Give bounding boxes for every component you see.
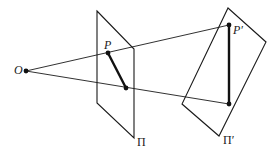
point-p-prime	[227, 23, 232, 28]
label-pi-prime: Π′	[223, 133, 235, 147]
point-q-prime	[227, 102, 232, 107]
plane-pi-prime	[182, 8, 266, 136]
segment-on-pi	[108, 53, 126, 88]
label-o: O	[14, 63, 23, 77]
point-q	[124, 86, 129, 91]
label-p-prime: P′	[232, 23, 243, 37]
ray-o-to-p-prime	[26, 25, 229, 71]
label-pi: Π	[137, 135, 146, 149]
plane-pi	[97, 11, 134, 138]
projection-diagram: O P P′ Π Π′	[0, 0, 279, 156]
label-p: P	[103, 38, 112, 52]
point-o	[24, 69, 29, 74]
